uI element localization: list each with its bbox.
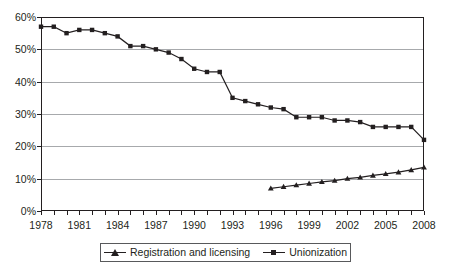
- x-axis-tick: [271, 211, 272, 215]
- x-axis-tick: [181, 211, 182, 215]
- x-axis-tick: [67, 211, 68, 215]
- x-axis-tick: [347, 211, 348, 215]
- x-axis-tick-label: 1990: [174, 220, 214, 231]
- x-axis-tick-label: 1999: [289, 220, 329, 231]
- x-axis-tick-label: 1978: [21, 220, 61, 231]
- x-axis-tick-label: 1996: [251, 220, 291, 231]
- x-axis-tick: [258, 211, 259, 215]
- x-axis-tick: [360, 211, 361, 215]
- x-axis-tick: [92, 211, 93, 215]
- x-axis-tick: [143, 211, 144, 215]
- x-axis-tick: [220, 211, 221, 215]
- gridline: [42, 114, 423, 115]
- x-axis-tick: [335, 211, 336, 215]
- x-axis-tick: [130, 211, 131, 215]
- x-axis-tick: [284, 211, 285, 215]
- x-axis-tick: [386, 211, 387, 215]
- y-axis-tick-label: 0%: [0, 206, 36, 217]
- y-axis-tick-label: 30%: [0, 109, 36, 120]
- x-axis-tick-label: 1993: [213, 220, 253, 231]
- x-axis-tick: [309, 211, 310, 215]
- x-axis-tick-label: 2008: [404, 220, 444, 231]
- square-marker-icon: [263, 248, 285, 258]
- x-axis-tick-label: 1981: [59, 220, 99, 231]
- y-axis-tick-label: 20%: [0, 141, 36, 152]
- x-axis-tick: [296, 211, 297, 215]
- x-axis-tick: [424, 211, 425, 215]
- y-axis-tick-label: 40%: [0, 77, 36, 88]
- x-axis-tick: [322, 211, 323, 215]
- x-axis-tick-label: 2002: [327, 220, 367, 231]
- y-axis-tick-label: 60%: [0, 12, 36, 23]
- chart-container: 0%10%20%30%40%50%60% 1978198119841987199…: [0, 0, 449, 266]
- gridline: [42, 49, 423, 50]
- plot-area: [41, 17, 424, 211]
- triangle-marker-icon: [104, 248, 126, 258]
- x-axis-tick: [54, 211, 55, 215]
- x-axis-tick: [194, 211, 195, 215]
- legend-entry-unionization: Unionization: [263, 247, 347, 258]
- x-axis-tick: [207, 211, 208, 215]
- chart-legend: Registration and licensing Unionization: [100, 243, 351, 262]
- legend-label-registration-and-licensing: Registration and licensing: [130, 247, 250, 258]
- y-axis-tick-label: 10%: [0, 174, 36, 185]
- x-axis-tick: [245, 211, 246, 215]
- legend-label-unionization: Unionization: [289, 247, 347, 258]
- x-axis-tick: [79, 211, 80, 215]
- gridline: [42, 82, 423, 83]
- x-axis-tick: [41, 211, 42, 215]
- gridline: [42, 146, 423, 147]
- gridline: [42, 179, 423, 180]
- x-axis-tick: [373, 211, 374, 215]
- y-axis-tick-label: 50%: [0, 44, 36, 55]
- x-axis-tick-label: 1984: [98, 220, 138, 231]
- x-axis-tick: [233, 211, 234, 215]
- x-axis-tick-label: 2005: [366, 220, 406, 231]
- x-axis-tick-label: 1987: [136, 220, 176, 231]
- x-axis-tick: [398, 211, 399, 215]
- x-axis-tick: [169, 211, 170, 215]
- legend-entry-registration-and-licensing: Registration and licensing: [104, 247, 250, 258]
- x-axis-tick: [411, 211, 412, 215]
- x-axis-tick: [156, 211, 157, 215]
- x-axis-tick: [118, 211, 119, 215]
- x-axis-tick: [105, 211, 106, 215]
